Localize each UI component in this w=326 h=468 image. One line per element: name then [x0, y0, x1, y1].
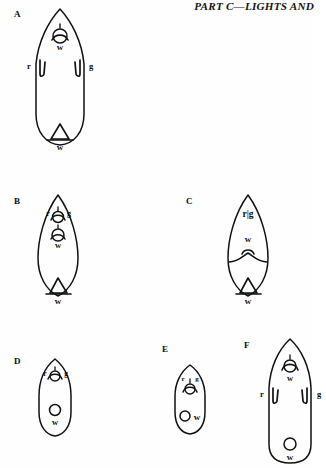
vessel-diagram-f: w r g w [254, 336, 326, 468]
bicolor-sidelight-d [48, 367, 62, 381]
masthead-light-label-f: w [287, 373, 294, 383]
port-sidelight-label-f: r [260, 389, 264, 399]
masthead-light-c [229, 250, 267, 262]
vessel-diagram-b: r g w w [26, 192, 90, 314]
masthead-light-f [282, 355, 298, 372]
figure-d: D r g w [0, 340, 120, 450]
figure-a: A w r g w [0, 0, 120, 165]
figure-label-d: D [14, 356, 21, 366]
masthead-light-label-c: w [245, 234, 252, 244]
figure-b: B r g w w [0, 190, 120, 315]
masthead-light-b [51, 225, 65, 241]
port-sidelight-label-a: r [27, 61, 31, 71]
sternlight-label-c: w [245, 296, 252, 306]
bicolor-port-label-e: r [181, 375, 184, 383]
bicolor-sidelight-b [51, 207, 65, 223]
vessel-diagram-e: r g w [166, 362, 214, 440]
starboard-sidelight-label-f: g [317, 389, 322, 399]
sternlight-label-a: w [57, 142, 64, 152]
vessel-diagram-c: r|g w w [216, 192, 280, 314]
running-header: PART C—LIGHTS AND [194, 0, 314, 12]
sternlight-c [236, 278, 261, 294]
bicolor-port-label-b: r [46, 209, 50, 218]
starboard-sidelight-f [302, 388, 307, 403]
all-round-light-d [50, 405, 61, 416]
figure-label-f: F [244, 340, 250, 350]
sternlight-b [46, 278, 71, 294]
figure-label-e: E [162, 344, 168, 354]
vessel-diagram-a: w r g w [22, 6, 98, 151]
hull-outline-e [175, 365, 205, 434]
bicolor-starboard-label-b: g [67, 209, 71, 218]
figure-label-b: B [14, 196, 20, 206]
bicolor-sidelight-label-c: r|g [242, 209, 253, 219]
all-round-light-label-d: w [52, 417, 59, 427]
port-sidelight-f [273, 388, 278, 403]
bicolor-starboard-label-e: g [195, 375, 199, 383]
figure-label-c: C [186, 196, 193, 206]
port-sidelight-a [40, 60, 45, 76]
sternlight-label-f: w [287, 452, 294, 462]
figure-e: E r g w [150, 340, 245, 450]
figure-c: C r|g w w [170, 190, 295, 315]
masthead-light-a [52, 24, 68, 43]
figure-f: F w r g w [240, 332, 312, 468]
figure-label-a: A [14, 9, 21, 19]
sternlight-f [284, 438, 296, 450]
masthead-light-label-b: w [55, 240, 62, 250]
all-round-light-e [180, 411, 190, 421]
all-round-light-label-e: w [194, 412, 201, 422]
bicolor-port-label-d: r [43, 369, 47, 378]
sternlight-a [47, 124, 73, 140]
starboard-sidelight-a [75, 60, 80, 76]
vessel-diagram-d: r g w [28, 356, 82, 442]
sternlight-label-b: w [55, 296, 62, 306]
starboard-sidelight-label-a: g [89, 61, 94, 71]
bicolor-starboard-label-d: g [64, 369, 68, 378]
masthead-light-label-a: w [57, 42, 64, 52]
